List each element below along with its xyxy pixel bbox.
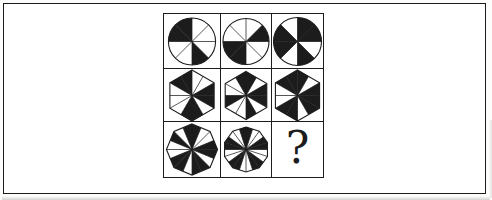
puzzle-frame: ?	[3, 3, 486, 194]
sector-divider-line	[246, 41, 271, 69]
question-mark: ?	[286, 126, 310, 170]
matrix-cell-r1c1	[221, 69, 272, 122]
matrix-cell-r0c1	[221, 14, 272, 69]
scan-artifact-bottom	[2, 196, 490, 200]
matrix-cell-r2c1	[221, 122, 272, 177]
figure-circle-wheel	[164, 14, 220, 69]
matrix-cell-r2c0	[164, 122, 221, 177]
black-sector	[170, 95, 192, 122]
black-sector	[192, 73, 220, 95]
figure-octagon-wheel	[164, 122, 220, 177]
matrix-cell-r1c2	[272, 69, 323, 122]
matrix-cell-r2c2: ?	[272, 122, 323, 177]
figure-hexagon-wheel	[221, 69, 271, 122]
matrix-grid: ?	[163, 13, 324, 178]
matrix-cell-r0c2	[272, 14, 323, 69]
matrix-cell-r1c0	[164, 69, 221, 122]
matrix-cell-r0c0	[164, 14, 221, 69]
figure-circle-wheel	[221, 14, 271, 69]
figure-hexagon-wheel	[164, 69, 220, 122]
figure-hexagon-wheel	[272, 69, 323, 122]
figure-decagon-wheel	[221, 122, 271, 177]
scanned-page: ?	[0, 0, 492, 200]
figure-circle-wheel	[272, 14, 323, 69]
